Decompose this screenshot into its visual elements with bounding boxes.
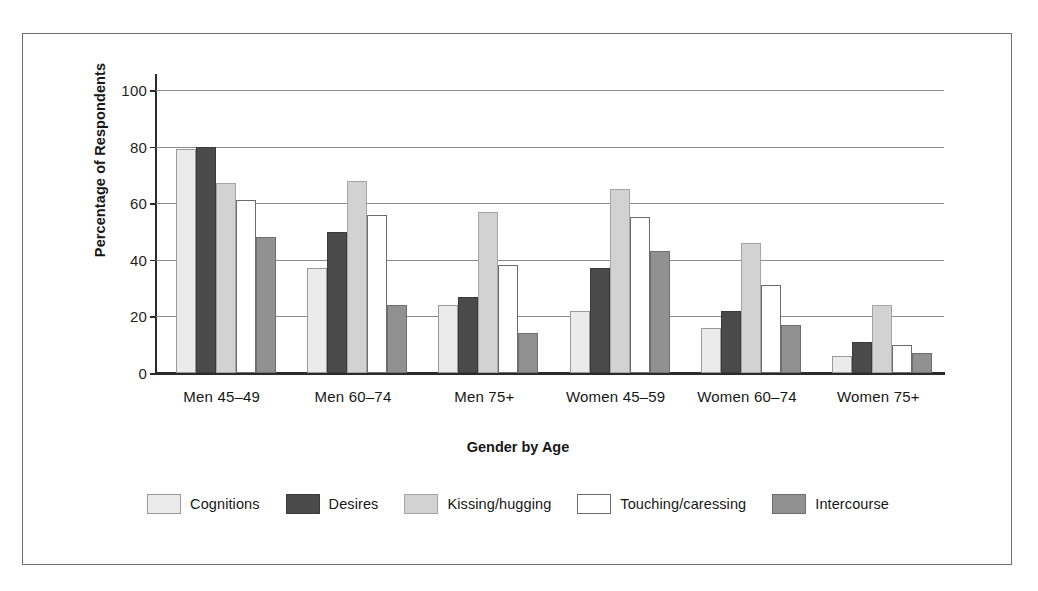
bar-cognitions-group-6[interactable] [832, 356, 852, 373]
bar-group-1 [176, 90, 276, 373]
x-tick-label-1: Men 45–49 [156, 388, 287, 405]
bar-kissing-hugging-group-2[interactable] [347, 181, 367, 373]
legend-item-touching-caressing[interactable]: Touching/caressing [577, 494, 746, 514]
bar-touching-caressing-group-2[interactable] [367, 215, 387, 373]
bar-group-3 [438, 90, 538, 373]
x-tick-label-6: Women 75+ [813, 388, 944, 405]
bar-cognitions-group-2[interactable] [307, 268, 327, 373]
bar-kissing-hugging-group-5[interactable] [741, 243, 761, 373]
legend-item-kissing-hugging[interactable]: Kissing/hugging [404, 494, 551, 514]
bar-touching-caressing-group-4[interactable] [630, 217, 650, 373]
legend-item-intercourse[interactable]: Intercourse [772, 494, 889, 514]
legend-label-intercourse: Intercourse [815, 496, 889, 512]
legend-label-kissing-hugging: Kissing/hugging [447, 496, 551, 512]
bar-intercourse-group-5[interactable] [781, 325, 801, 373]
legend-swatch-cognitions-icon [147, 494, 181, 514]
bar-intercourse-group-3[interactable] [518, 333, 538, 373]
bar-cognitions-group-4[interactable] [570, 311, 590, 373]
chart-frame: 0 20 40 60 80 100 Percentage of Responde… [22, 33, 1012, 565]
bar-cognitions-group-1[interactable] [176, 149, 196, 373]
x-tick-label-5: Women 60–74 [681, 388, 812, 405]
legend-label-touching-caressing: Touching/caressing [620, 496, 746, 512]
legend-label-cognitions: Cognitions [190, 496, 260, 512]
bar-desires-group-5[interactable] [721, 311, 741, 373]
bar-desires-group-1[interactable] [196, 147, 216, 373]
bar-kissing-hugging-group-1[interactable] [216, 183, 236, 373]
bar-intercourse-group-4[interactable] [650, 251, 670, 373]
legend-swatch-intercourse-icon [772, 494, 806, 514]
bar-kissing-hugging-group-3[interactable] [478, 212, 498, 373]
x-tick-label-2: Men 60–74 [287, 388, 418, 405]
x-axis-title: Gender by Age [23, 439, 1013, 455]
bar-touching-caressing-group-6[interactable] [892, 345, 912, 373]
bar-group-6 [832, 90, 932, 373]
bar-intercourse-group-2[interactable] [387, 305, 407, 373]
legend-label-desires: Desires [329, 496, 379, 512]
bar-desires-group-4[interactable] [590, 268, 610, 373]
bar-touching-caressing-group-1[interactable] [236, 200, 256, 373]
plot-area [156, 90, 944, 373]
bar-touching-caressing-group-5[interactable] [761, 285, 781, 373]
y-axis-title: Percentage of Respondents [92, 45, 108, 275]
legend-swatch-kissing-hugging-icon [404, 494, 438, 514]
legend-swatch-touching-caressing-icon [577, 494, 611, 514]
bar-desires-group-3[interactable] [458, 297, 478, 373]
bar-intercourse-group-1[interactable] [256, 237, 276, 373]
bar-cognitions-group-3[interactable] [438, 305, 458, 373]
bar-cognitions-group-5[interactable] [701, 328, 721, 373]
bar-group-5 [701, 90, 801, 373]
bar-kissing-hugging-group-4[interactable] [610, 189, 630, 373]
chart-legend: CognitionsDesiresKissing/huggingTouching… [23, 494, 1013, 514]
y-tick-label-0: 0 [101, 365, 147, 382]
x-tick-label-4: Women 45–59 [550, 388, 681, 405]
bar-group-4 [570, 90, 670, 373]
bar-intercourse-group-6[interactable] [912, 353, 932, 373]
bar-desires-group-2[interactable] [327, 232, 347, 374]
y-tick-label-20: 20 [101, 308, 147, 325]
legend-item-desires[interactable]: Desires [286, 494, 379, 514]
bar-kissing-hugging-group-6[interactable] [872, 305, 892, 373]
bar-desires-group-6[interactable] [852, 342, 872, 373]
legend-swatch-desires-icon [286, 494, 320, 514]
legend-item-cognitions[interactable]: Cognitions [147, 494, 260, 514]
bar-touching-caressing-group-3[interactable] [498, 265, 518, 373]
x-tick-label-3: Men 75+ [419, 388, 550, 405]
bar-group-2 [307, 90, 407, 373]
